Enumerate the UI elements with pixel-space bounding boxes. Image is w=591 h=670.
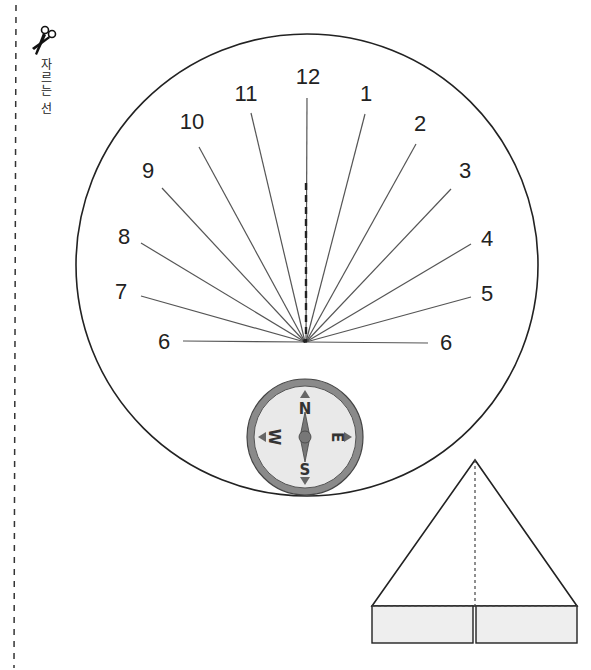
cut-line xyxy=(14,5,16,668)
compass-north-label: N xyxy=(299,400,312,418)
hour-label-11: 11 xyxy=(235,81,258,106)
scissors-icon xyxy=(32,27,56,56)
hour-label-12: 12 xyxy=(296,64,320,89)
hour-label-6-right: 6 xyxy=(440,330,452,355)
hour-label-4: 4 xyxy=(481,226,493,251)
compass-east-label: E xyxy=(328,432,346,442)
hour-label-7: 7 xyxy=(115,279,127,304)
compass-south-label: S xyxy=(300,461,311,479)
compass-west-label: W xyxy=(265,429,283,446)
gnomon-tab-left xyxy=(372,606,473,643)
hour-label-3: 3 xyxy=(459,158,471,183)
hour-label-9: 9 xyxy=(142,158,154,183)
cut-line-label: 자르는 선 xyxy=(30,58,54,115)
compass: N S E W xyxy=(247,379,363,495)
hour-label-6-left: 6 xyxy=(158,329,170,354)
hour-label-1: 1 xyxy=(360,81,372,106)
hour-label-2: 2 xyxy=(414,111,426,136)
sundial-worksheet: 12 1 2 3 4 5 6 11 10 9 8 7 6 N S E W xyxy=(0,0,591,670)
gnomon-cutout xyxy=(372,460,577,643)
hour-label-5: 5 xyxy=(481,281,493,306)
gnomon-tab-right xyxy=(476,606,577,643)
dial-origin xyxy=(303,339,307,343)
hour-label-10: 10 xyxy=(180,109,204,134)
hour-label-8: 8 xyxy=(118,224,130,249)
